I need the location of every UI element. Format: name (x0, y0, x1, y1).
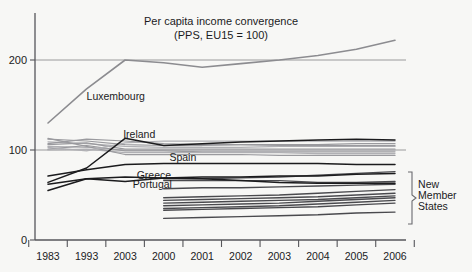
income-convergence-line-chart: 0100200 19831993200320002001200220032004… (0, 0, 472, 272)
y-tick-label-200: 200 (9, 54, 27, 66)
annotation-luxembourg: Luxembourg (87, 90, 146, 102)
annotation-portugal: Portugal (133, 178, 172, 190)
annotation-spain: Spain (169, 151, 196, 163)
x-tick-label-2003-2: 2003 (113, 250, 137, 262)
y-tick-label-100: 100 (9, 144, 27, 156)
x-tick-label-2002-5: 2002 (229, 250, 253, 262)
x-tick-label-2004-7: 2004 (306, 250, 330, 262)
chart-title: Per capita income convergence (144, 15, 298, 27)
annotation-ireland: Ireland (123, 128, 155, 140)
x-tick-label-2005-8: 2005 (345, 250, 369, 262)
x-tick-label-2000-3: 2000 (152, 250, 176, 262)
x-tick-label-2001-4: 2001 (191, 250, 215, 262)
x-tick-label-2003-6: 2003 (268, 250, 292, 262)
annotation-states: States (418, 200, 448, 212)
chart-container: 0100200 19831993200320002001200220032004… (0, 0, 472, 272)
x-tick-label-1983-0: 1983 (36, 250, 60, 262)
chart-subtitle: (PPS, EU15 = 100) (174, 29, 268, 41)
x-tick-label-1993-1: 1993 (75, 250, 99, 262)
x-tick-label-2006-9: 2006 (383, 250, 407, 262)
y-tick-label-0: 0 (21, 234, 27, 246)
